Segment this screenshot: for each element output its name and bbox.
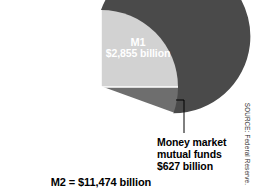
pie-chart-figure: M1 $2,855 billion Savings deposits $7,99… [0, 0, 253, 196]
callout-label-money-market: Money market mutual funds $627 billion [157, 136, 249, 173]
callout-label-money-market-line2: mutual funds [157, 148, 249, 160]
chart-total-caption: M2 = $11,474 billion [26, 176, 176, 188]
slice-label-savings-amount: $7,992 billion [20, 105, 112, 117]
slice-label-m1: M1 $2,855 billion [96, 36, 180, 60]
slice-label-m1-amount: $2,855 billion [96, 48, 180, 60]
source-note: SOURCE: Federal Reserve. [241, 96, 253, 192]
source-note-text: SOURCE: Federal Reserve. [244, 103, 251, 185]
callout-label-money-market-line1: Money market [157, 136, 249, 148]
slice-label-savings-line1: Savings [20, 81, 112, 93]
slice-label-savings-deposits: Savings deposits $7,992 billion [20, 81, 112, 116]
slice-label-savings-line2: deposits [20, 93, 112, 105]
callout-label-money-market-amount: $627 billion [157, 160, 249, 172]
